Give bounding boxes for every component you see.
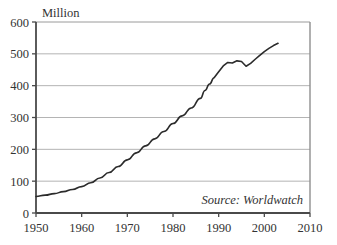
y-tick-label-400: 400 [10, 79, 29, 93]
line-chart: 0100200300400500600 19501960197019801990… [0, 0, 337, 245]
y-tick-label-500: 500 [10, 47, 29, 61]
y-tick-label-100: 100 [10, 175, 29, 189]
y-tick-label-600: 600 [10, 16, 29, 30]
x-tick-label-1990: 1990 [206, 221, 231, 235]
x-tick-label-1980: 1980 [161, 221, 186, 235]
x-tick-label-2010: 2010 [298, 221, 323, 235]
x-tick-label-1970: 1970 [115, 221, 140, 235]
y-tick-label-300: 300 [10, 111, 29, 125]
y-tick-label-200: 200 [10, 143, 29, 157]
y-axis-title: Million [42, 6, 80, 20]
x-tick-label-1950: 1950 [24, 221, 49, 235]
y-tick-label-0: 0 [23, 207, 29, 221]
x-tick-label-2000: 2000 [252, 221, 277, 235]
x-tick-label-1960: 1960 [69, 221, 94, 235]
chart-background [0, 0, 337, 245]
source-annotation: Source: Worldwatch [202, 193, 304, 207]
chart-container: 0100200300400500600 19501960197019801990… [0, 0, 337, 245]
